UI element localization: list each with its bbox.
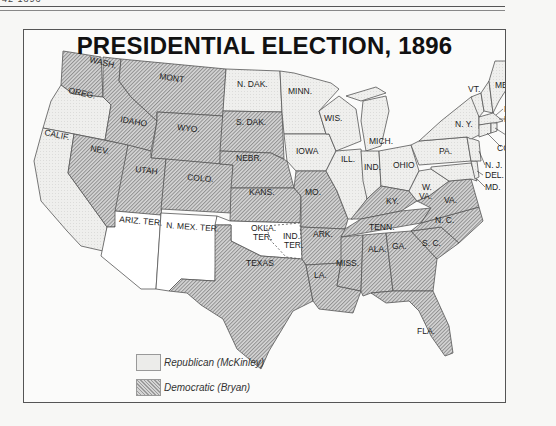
label-iowa: IOWA (296, 146, 319, 156)
label-conn: CONN. (497, 143, 505, 153)
legend-item-democratic: Democratic (Bryan) (136, 377, 264, 398)
state-florida (371, 291, 453, 356)
label-ohio: OHIO (393, 160, 415, 170)
state-colorado (161, 159, 233, 213)
state-rhode-island (491, 123, 497, 133)
legend-item-republican: Republican (McKinley) (136, 352, 264, 373)
legend-swatch-democratic (136, 379, 161, 396)
legend-swatch-republican (136, 354, 161, 371)
label-ala: ALA. (368, 244, 386, 254)
label-del: DEL. (485, 170, 504, 180)
label-va: VA. (444, 195, 457, 205)
map-title: PRESIDENTIAL ELECTION, 1896 (24, 32, 505, 60)
label-minn: MINN. (288, 86, 312, 96)
label-tenn: TENN. (369, 222, 395, 232)
label-sdak: S. DAK. (236, 117, 266, 127)
label-kans: KANS. (249, 187, 275, 197)
label-nebr: NEBR. (236, 153, 262, 163)
state-wyoming (151, 112, 223, 164)
label-okla-ter: TER. (253, 232, 272, 242)
map-legend: Republican (McKinley) Democratic (Bryan) (136, 352, 264, 402)
label-mich: MICH. (369, 136, 393, 146)
label-fla: FLA. (417, 326, 435, 336)
label-nh: N. H. (504, 104, 505, 114)
label-wis: WIS. (324, 113, 342, 123)
label-ind: IND. (364, 162, 381, 172)
label-pa: PA. (439, 146, 452, 156)
label-sc: S. C. (422, 238, 441, 248)
label-nj: N. J. (485, 160, 502, 170)
label-ga: GA. (392, 241, 407, 251)
page-rule (0, 6, 505, 7)
label-vt: VT. (468, 84, 480, 94)
label-miss: MISS. (336, 258, 359, 268)
label-ndak: N. DAK. (237, 79, 268, 89)
label-ky: KY. (386, 196, 399, 206)
label-wva: VA. (419, 191, 432, 201)
legend-label-democratic: Democratic (Bryan) (164, 382, 250, 393)
label-ark: ARK. (313, 229, 333, 239)
label-ny: N. Y. (455, 119, 473, 129)
label-mass: MASS. (504, 114, 505, 124)
label-texas: TEXAS (246, 258, 274, 268)
state-north-dakota (223, 69, 282, 112)
map-frame: WASH. OREG. CALIF. IDAHO NEV. MONT WYO. … (23, 29, 506, 403)
label-ill: ILL. (341, 154, 355, 164)
page-rule (0, 10, 505, 11)
label-la: LA. (314, 270, 327, 280)
legend-label-republican: Republican (McKinley) (164, 357, 264, 368)
label-nc: N. C. (435, 215, 454, 225)
page-header-fragment: 42 1896 (2, 0, 42, 4)
label-md: MD. (485, 182, 501, 192)
us-election-map: WASH. OREG. CALIF. IDAHO NEV. MONT WYO. … (24, 30, 505, 402)
label-ind-ter: TER. (284, 240, 303, 250)
label-mo: MO. (305, 187, 321, 197)
label-me: ME. (495, 80, 505, 90)
